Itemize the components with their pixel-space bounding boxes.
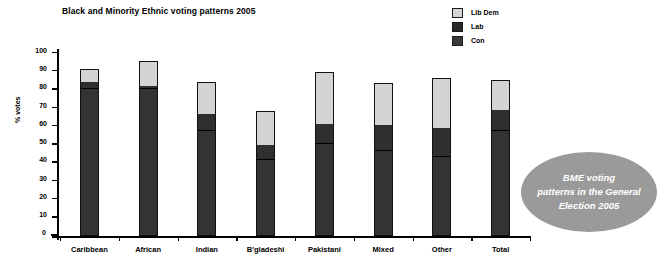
bar-segment-lab: [198, 114, 215, 131]
bar-segment-con: [198, 131, 215, 235]
bar-segment-con: [140, 89, 157, 235]
bar-segment-libdem: [316, 73, 333, 124]
bar-segment-lab: [316, 124, 333, 143]
x-axis-line: [52, 236, 530, 238]
annotation-callout: BME voting patterns in the General Elect…: [521, 152, 657, 232]
y-tick-label-40: 40: [39, 156, 47, 163]
x-label-pakistani: Pakistani: [308, 245, 341, 254]
bar-segment-libdem: [375, 84, 392, 124]
legend-swatch-con: [452, 36, 463, 46]
bar-mixed[interactable]: [374, 83, 393, 236]
x-tick-3: [236, 236, 237, 241]
annotation-line-2: patterns in the General: [537, 186, 640, 197]
bar-segment-lab: [375, 125, 392, 152]
bar-segment-con: [492, 131, 509, 235]
bar-segment-con: [375, 151, 392, 235]
bar-segment-libdem: [81, 70, 98, 83]
bar-african[interactable]: [139, 61, 158, 236]
y-tick-50: 50: [52, 143, 57, 144]
bar-total[interactable]: [491, 80, 510, 236]
y-tick-40: 40: [52, 161, 57, 162]
x-label-indian: Indian: [196, 245, 218, 254]
x-tick-7: [471, 236, 472, 241]
x-label-african: African: [135, 245, 161, 254]
chart-legend: Lib Dem Lab Con: [452, 6, 572, 48]
y-tick-20: 20: [52, 198, 57, 199]
chart-title: Black and Minority Ethnic voting pattern…: [62, 6, 256, 16]
y-tick-label-70: 70: [39, 102, 47, 109]
bar-segment-libdem: [492, 81, 509, 110]
annotation-line-3: Election 2005: [559, 200, 620, 211]
legend-swatch-lib-dem: [452, 8, 463, 18]
bar-segment-con: [316, 144, 333, 235]
y-tick-100: 100: [52, 52, 57, 53]
x-label-other: Other: [432, 245, 452, 254]
bar-b-gladeshi[interactable]: [256, 111, 275, 236]
bar-segment-libdem: [140, 62, 157, 86]
bar-segment-con: [257, 160, 274, 235]
bar-caribbean[interactable]: [80, 69, 99, 236]
legend-swatch-lab: [452, 22, 463, 32]
plot-area: 0102030405060708090100 CaribbeanAfricanI…: [57, 53, 527, 236]
y-tick-30: 30: [52, 180, 57, 181]
y-axis-line: [57, 49, 59, 240]
annotation-text: BME voting patterns in the General Elect…: [527, 171, 650, 212]
bar-segment-libdem: [257, 112, 274, 145]
y-tick-label-100: 100: [35, 47, 47, 54]
bar-indian[interactable]: [197, 82, 216, 236]
x-tick-6: [413, 236, 414, 241]
y-tick-60: 60: [52, 125, 57, 126]
x-label-b-gladeshi: B'gladeshi: [247, 245, 285, 254]
legend-item-lab: Lab: [452, 20, 572, 33]
x-tick-0: [60, 236, 61, 241]
bar-segment-libdem: [198, 83, 215, 114]
x-label-caribbean: Caribbean: [71, 245, 108, 254]
y-tick-label-80: 80: [39, 83, 47, 90]
y-tick-70: 70: [52, 107, 57, 108]
legend-label-lab: Lab: [471, 23, 483, 30]
y-tick-label-20: 20: [39, 193, 47, 200]
legend-item-con: Con: [452, 34, 572, 47]
y-tick-label-50: 50: [39, 138, 47, 145]
x-tick-4: [295, 236, 296, 241]
bar-segment-con: [81, 89, 98, 235]
y-tick-80: 80: [52, 88, 57, 89]
x-tick-2: [178, 236, 179, 241]
legend-item-lib-dem: Lib Dem: [452, 6, 572, 19]
chart-container: Black and Minority Ethnic voting pattern…: [0, 0, 664, 265]
y-tick-label-0: 0: [42, 229, 46, 236]
bar-segment-lab: [257, 145, 274, 161]
legend-label-con: Con: [471, 37, 485, 44]
x-label-total: Total: [492, 245, 509, 254]
bar-segment-libdem: [433, 79, 450, 128]
bar-segment-lab: [433, 128, 450, 156]
y-axis-title: % votes: [14, 97, 21, 123]
y-tick-label-90: 90: [39, 65, 47, 72]
annotation-line-1: BME voting: [563, 172, 615, 183]
x-label-mixed: Mixed: [372, 245, 393, 254]
y-tick-0: 0: [51, 234, 58, 236]
x-tick-5: [354, 236, 355, 241]
x-tick-8: [530, 236, 531, 241]
bar-segment-lab: [492, 110, 509, 131]
bar-segment-con: [433, 157, 450, 235]
legend-label-lib-dem: Lib Dem: [471, 9, 499, 16]
x-tick-1: [119, 236, 120, 241]
y-tick-10: 10: [52, 216, 57, 217]
bar-other[interactable]: [432, 78, 451, 236]
bar-pakistani[interactable]: [315, 72, 334, 236]
y-tick-label-10: 10: [39, 211, 47, 218]
y-tick-label-60: 60: [39, 120, 47, 127]
y-tick-label-30: 30: [39, 175, 47, 182]
y-tick-90: 90: [52, 70, 57, 71]
